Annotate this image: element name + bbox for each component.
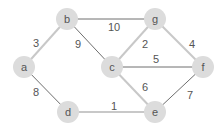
node-d: d: [57, 101, 79, 123]
edge-weight-label: 7: [187, 89, 193, 101]
edge-weight-label: 2: [142, 38, 148, 50]
edge-weight-label: 3: [33, 37, 39, 49]
edge-weight-label: 5: [153, 53, 159, 65]
node-f: f: [192, 56, 214, 78]
node-label: c: [109, 61, 115, 73]
graph-diagram: 31098245617 abcdefg: [0, 0, 224, 136]
edge-weight-label: 1: [111, 100, 117, 112]
edge-weight-label: 10: [108, 21, 120, 33]
node-g: g: [144, 8, 166, 30]
node-label: d: [65, 106, 71, 118]
node-a: a: [13, 56, 35, 78]
edge-weight-label: 8: [33, 86, 39, 98]
node-label: g: [152, 13, 158, 25]
node-e: e: [144, 101, 166, 123]
edge-weight-label: 9: [75, 38, 81, 50]
node-b: b: [56, 8, 78, 30]
edge-weight-label: 6: [142, 81, 148, 93]
node-c: c: [101, 56, 123, 78]
node-label: b: [64, 13, 70, 25]
node-label: e: [152, 106, 158, 118]
edge-weight-label: 4: [189, 38, 195, 50]
node-label: a: [21, 61, 28, 73]
